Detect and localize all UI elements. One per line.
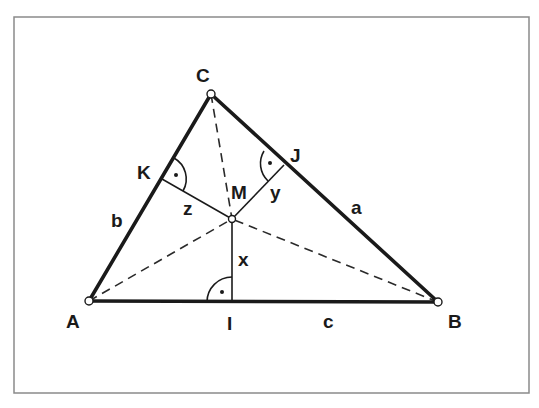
right-angle-dot-j: [268, 161, 272, 165]
vertex-b: [434, 298, 442, 306]
right-angle-marker-j: [260, 151, 268, 181]
label-j: J: [290, 145, 301, 166]
label-i: I: [227, 313, 232, 334]
diagram-frame: [14, 17, 529, 393]
label-c-vertex: C: [196, 65, 210, 86]
right-angle-dot-k: [174, 173, 178, 177]
label-a-side: a: [351, 197, 362, 218]
label-b-side: b: [111, 210, 123, 231]
side-b: [89, 94, 211, 301]
vertex-a: [85, 297, 93, 305]
label-b-vertex: B: [448, 311, 462, 332]
label-k: K: [137, 162, 151, 183]
incenter-m: [229, 216, 236, 223]
label-c-side: c: [323, 311, 334, 332]
label-z: z: [183, 198, 193, 219]
bisector-b-m: [232, 219, 438, 302]
label-x: x: [238, 249, 249, 270]
vertex-c: [207, 90, 215, 98]
segment-z: [162, 179, 232, 219]
label-y: y: [270, 182, 281, 203]
right-angle-marker-i: [207, 277, 232, 302]
label-m: M: [231, 182, 247, 203]
triangle-diagram: C K J M z y b a x A I c B: [0, 0, 539, 408]
label-a-vertex: A: [66, 311, 80, 332]
side-c: [89, 301, 438, 302]
right-angle-dot-i: [220, 290, 224, 294]
